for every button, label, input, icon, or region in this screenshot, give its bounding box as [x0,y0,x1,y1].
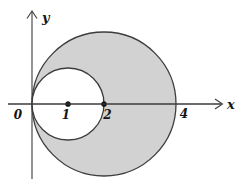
tick-label-1: 1 [62,108,70,122]
origin-label: 0 [14,108,23,122]
x-axis-label: x [226,97,235,112]
circle-region-diagram: y x 0 124 [0,0,247,192]
figure-canvas: y x 0 124 [0,0,247,192]
tick-label-2: 2 [102,108,111,122]
y-axis-label: y [41,10,51,25]
tick-label-4: 4 [180,107,188,121]
